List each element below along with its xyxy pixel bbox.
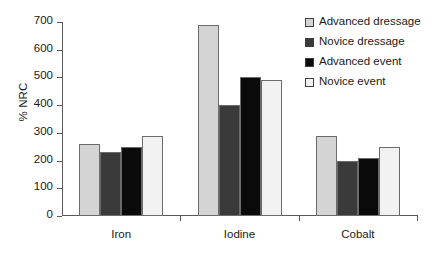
legend-label: Advanced dressage	[319, 16, 421, 28]
y-axis-tick: 500	[57, 77, 62, 78]
legend-swatch-icon	[305, 78, 314, 87]
bar-group: Iron	[79, 22, 163, 216]
y-axis-tick-label: 0	[47, 208, 53, 220]
legend-swatch-icon	[305, 38, 314, 47]
bar[interactable]	[100, 152, 121, 216]
y-axis-tick: 300	[57, 133, 62, 134]
y-axis-tick: 0	[57, 216, 62, 217]
y-axis-tick-label: 500	[34, 69, 53, 81]
legend-label: Novice event	[319, 76, 385, 88]
y-axis-tick: 700	[57, 22, 62, 23]
y-axis-title: % NRC	[17, 72, 29, 132]
bar[interactable]	[121, 147, 142, 216]
chart-legend: Advanced dressageNovice dressageAdvanced…	[305, 12, 443, 92]
bar[interactable]	[79, 144, 100, 216]
bar[interactable]	[198, 25, 219, 216]
x-axis-tick	[417, 216, 418, 221]
x-axis-category-label: Iodine	[180, 228, 300, 240]
y-axis-tick-label: 100	[34, 180, 53, 192]
x-axis-tick	[180, 216, 181, 221]
y-axis-tick: 600	[57, 50, 62, 51]
bar[interactable]	[379, 147, 400, 216]
bar[interactable]	[337, 161, 358, 216]
y-axis-tick: 400	[57, 105, 62, 106]
bar[interactable]	[240, 77, 261, 216]
y-axis-tick-label: 400	[34, 97, 53, 109]
legend-swatch-icon	[305, 18, 314, 27]
x-axis-category-label: Cobalt	[298, 228, 418, 240]
legend-label: Advanced event	[319, 56, 401, 68]
y-axis-tick-label: 200	[34, 153, 53, 165]
x-axis-category-label: Iron	[61, 228, 181, 240]
y-axis-tick-label: 300	[34, 125, 53, 137]
x-axis-tick	[299, 216, 300, 221]
bar[interactable]	[358, 158, 379, 216]
y-axis-tick: 100	[57, 188, 62, 189]
bar-chart: % NRC 7006005004003002001000 IronIodineC…	[0, 0, 443, 255]
legend-swatch-icon	[305, 58, 314, 67]
legend-item[interactable]: Advanced event	[305, 52, 443, 72]
bar[interactable]	[219, 105, 240, 216]
y-axis-tick-label: 700	[34, 14, 53, 26]
legend-item[interactable]: Novice dressage	[305, 32, 443, 52]
legend-label: Novice dressage	[319, 36, 405, 48]
y-axis-tick: 200	[57, 161, 62, 162]
bar[interactable]	[142, 136, 163, 216]
legend-item[interactable]: Novice event	[305, 72, 443, 92]
bar-group: Iodine	[198, 22, 282, 216]
y-axis-line	[62, 22, 63, 216]
bar[interactable]	[316, 136, 337, 216]
y-axis-tick-label: 600	[34, 42, 53, 54]
bar[interactable]	[261, 80, 282, 216]
legend-item[interactable]: Advanced dressage	[305, 12, 443, 32]
